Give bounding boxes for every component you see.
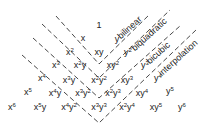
interpolation-boundary <box>22 30 196 123</box>
term-x3: x3 <box>52 61 60 70</box>
term-x: x <box>81 34 86 43</box>
term-x2y4: x2y4 <box>119 103 135 112</box>
term-y2: y2 <box>124 48 132 57</box>
term-x2y2: x2y2 <box>91 76 107 85</box>
term-x4y2: x4y2 <box>61 103 77 112</box>
term-x3y3: x3y3 <box>91 103 107 112</box>
term-1: 1 <box>96 21 101 30</box>
term-x3y: x3y <box>63 76 75 85</box>
term-x6: x6 <box>8 103 16 112</box>
term-x2y: x2y <box>74 61 86 70</box>
term-xy4: xy4 <box>136 89 148 98</box>
term-x3y2: x3y2 <box>75 89 91 98</box>
term-xy3: xy3 <box>121 76 133 85</box>
term-x4y: x4y <box>49 89 61 98</box>
term-xy: xy <box>95 48 104 57</box>
term-x5: x5 <box>24 88 32 97</box>
interpolation-terms-diagram: 1xyx2xyy2x3x2yxy2y3x4x3yx2y2xy3y4x5x4yx3… <box>0 0 218 131</box>
term-xy2: xy2 <box>107 61 119 70</box>
term-x2: x2 <box>66 48 74 57</box>
term-x4: x4 <box>38 74 46 83</box>
term-x5y: x5y <box>34 103 46 112</box>
term-xy5: xy5 <box>150 103 162 112</box>
term-y6: y6 <box>178 103 186 112</box>
term-x2y3: x2y3 <box>105 89 121 98</box>
term-y5: y5 <box>166 87 174 96</box>
